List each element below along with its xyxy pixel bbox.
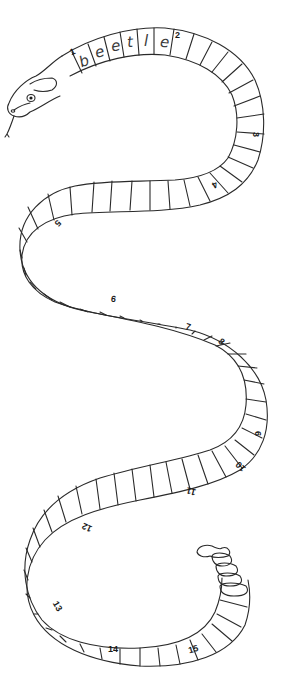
letter-b: b (76, 51, 92, 71)
snake-head (5, 56, 62, 137)
letter-t: t (126, 33, 135, 52)
number-6: 6 (110, 294, 117, 305)
tongue (5, 116, 14, 137)
number-14: 14 (108, 644, 118, 654)
letter-l: l (144, 32, 149, 50)
number-11: 11 (185, 485, 197, 497)
letter-e3: e (159, 33, 169, 52)
number-12: 12 (80, 521, 93, 534)
number-10: 10 (234, 460, 248, 474)
number-9: 9 (253, 431, 263, 436)
number-2: 2 (175, 30, 180, 40)
letter-e2: e (109, 36, 121, 55)
number-15: 15 (187, 643, 199, 655)
snake-body (20, 28, 267, 666)
number-13: 13 (51, 599, 65, 613)
snake-game-board: b e e t l e 1 2 3 4 5 6 7 8 9 10 11 12 1… (0, 0, 284, 698)
number-4: 4 (210, 179, 219, 190)
letter-e1: e (93, 42, 107, 62)
snake-rattle (197, 545, 248, 596)
number-3: 3 (251, 132, 261, 137)
